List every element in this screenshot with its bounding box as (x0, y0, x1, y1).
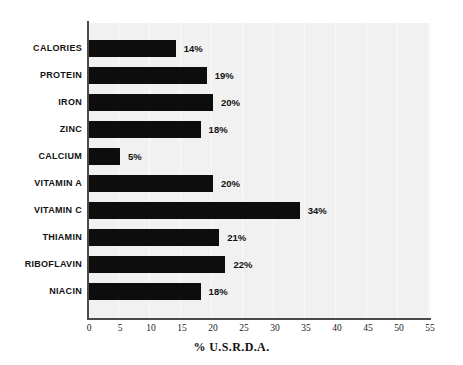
bar-row: NIACIN18% (0, 283, 463, 310)
bar-iron (89, 94, 213, 111)
x-tick-label-0: 0 (74, 323, 104, 333)
bar-chart: CALORIES14%PROTEIN19%IRON20%ZINC18%CALCI… (0, 0, 463, 365)
x-tick-label-55: 55 (415, 323, 445, 333)
category-label-calories: CALORIES (0, 40, 82, 57)
value-label-niacin: 18% (209, 283, 228, 300)
value-label-thiamin: 21% (227, 229, 246, 246)
value-label-vitamin-c: 34% (308, 202, 327, 219)
bar-riboflavin (89, 256, 225, 273)
x-tick-label-15: 15 (167, 323, 197, 333)
category-label-riboflavin: RIBOFLAVIN (0, 256, 82, 273)
category-label-vitamin-c: VITAMIN C (0, 202, 82, 219)
category-label-calcium: CALCIUM (0, 148, 82, 165)
value-label-iron: 20% (221, 94, 240, 111)
bar-row: CALCIUM5% (0, 148, 463, 175)
bar-vitamin-a (89, 175, 213, 192)
x-tick-label-20: 20 (198, 323, 228, 333)
category-label-iron: IRON (0, 94, 82, 111)
bar-protein (89, 67, 207, 84)
value-label-calories: 14% (184, 40, 203, 57)
value-label-calcium: 5% (128, 148, 142, 165)
bar-calcium (89, 148, 120, 165)
category-label-thiamin: THIAMIN (0, 229, 82, 246)
x-axis-title: % U.S.R.D.A. (0, 340, 463, 355)
bar-zinc (89, 121, 201, 138)
x-tick-label-10: 10 (136, 323, 166, 333)
value-label-protein: 19% (215, 67, 234, 84)
x-tick-label-40: 40 (322, 323, 352, 333)
bar-thiamin (89, 229, 219, 246)
category-label-protein: PROTEIN (0, 67, 82, 84)
x-tick-label-45: 45 (353, 323, 383, 333)
value-label-riboflavin: 22% (233, 256, 252, 273)
x-tick-label-5: 5 (105, 323, 135, 333)
bar-row: RIBOFLAVIN22% (0, 256, 463, 283)
x-tick-label-35: 35 (291, 323, 321, 333)
bar-row: ZINC18% (0, 121, 463, 148)
x-tick-label-30: 30 (260, 323, 290, 333)
bar-niacin (89, 283, 201, 300)
category-label-zinc: ZINC (0, 121, 82, 138)
bar-row: VITAMIN C34% (0, 202, 463, 229)
x-tick-label-25: 25 (229, 323, 259, 333)
bar-row: PROTEIN19% (0, 67, 463, 94)
bar-vitamin-c (89, 202, 300, 219)
value-label-zinc: 18% (209, 121, 228, 138)
category-label-niacin: NIACIN (0, 283, 82, 300)
x-axis-line (88, 318, 431, 320)
bar-row: THIAMIN21% (0, 229, 463, 256)
bar-row: CALORIES14% (0, 40, 463, 67)
x-tick-label-50: 50 (384, 323, 414, 333)
bar-calories (89, 40, 176, 57)
category-label-vitamin-a: VITAMIN A (0, 175, 82, 192)
bar-row: VITAMIN A20% (0, 175, 463, 202)
value-label-vitamin-a: 20% (221, 175, 240, 192)
bar-row: IRON20% (0, 94, 463, 121)
